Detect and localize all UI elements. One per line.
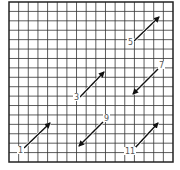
arrow-11: 11 <box>124 123 158 156</box>
arrow-icon <box>80 72 104 97</box>
arrow-label: 9 <box>104 114 109 123</box>
arrow-label: 3 <box>74 93 79 102</box>
arrow-label: 7 <box>159 61 164 70</box>
arrow-label: 5 <box>128 38 133 47</box>
arrow-1: 1 <box>17 123 50 155</box>
arrow-label: 11 <box>125 147 135 156</box>
arrow-label: 1 <box>18 146 23 155</box>
arrow-5: 5 <box>127 17 159 47</box>
arrow-icon <box>133 69 158 94</box>
grid-diagram: 1357911 <box>0 0 180 170</box>
arrow-icon <box>134 123 158 149</box>
